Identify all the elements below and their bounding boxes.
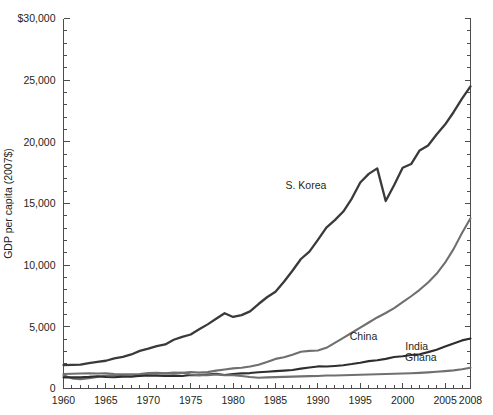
series-label-china: China <box>350 330 378 342</box>
x-tick-label: 1990 <box>306 394 330 406</box>
series-labels-group: S. KoreaChinaIndiaGhana <box>285 179 436 363</box>
y-tick-label: 0 <box>50 382 56 394</box>
y-axis-tick-labels: 05,00010,00015,00020,00025,000$30,000 <box>18 12 56 394</box>
x-tick-label: 1960 <box>52 394 76 406</box>
x-tick-label: 1985 <box>264 394 288 406</box>
gdp-per-capita-line-chart: 05,00010,00015,00020,00025,000$30,000 19… <box>0 0 493 415</box>
y-axis-title: GDP per capita (2007$) <box>2 148 14 259</box>
y-tick-label: 25,000 <box>23 74 55 86</box>
chart-container: 05,00010,00015,00020,00025,000$30,000 19… <box>0 0 493 415</box>
series-lines-group <box>64 86 471 379</box>
x-tick-label: 1995 <box>349 394 373 406</box>
y-tick-label: 10,000 <box>23 259 55 271</box>
y-axis-ticks <box>64 19 471 389</box>
x-tick-label: 1965 <box>94 394 118 406</box>
x-axis-tick-labels: 1960196519701975198019851990199520002005… <box>52 394 483 406</box>
y-axis-group: 05,00010,00015,00020,00025,000$30,000 <box>18 12 471 394</box>
series-line-s-korea <box>64 86 471 365</box>
x-tick-label: 1970 <box>137 394 161 406</box>
x-tick-label: 2005 <box>433 394 457 406</box>
series-label-ghana: Ghana <box>405 351 437 363</box>
x-tick-label: 2008 <box>459 394 483 406</box>
x-tick-label: 1980 <box>221 394 245 406</box>
y-tick-label: 20,000 <box>23 136 55 148</box>
x-axis-group: 1960196519701975198019851990199520002005… <box>52 383 483 406</box>
x-tick-label: 1975 <box>179 394 203 406</box>
x-tick-label: 2000 <box>391 394 415 406</box>
x-axis-ticks <box>64 383 471 389</box>
y-tick-label: 15,000 <box>23 197 55 209</box>
series-label-s-korea: S. Korea <box>285 179 326 191</box>
y-tick-label: $30,000 <box>18 12 56 24</box>
y-tick-label: 5,000 <box>29 321 55 333</box>
